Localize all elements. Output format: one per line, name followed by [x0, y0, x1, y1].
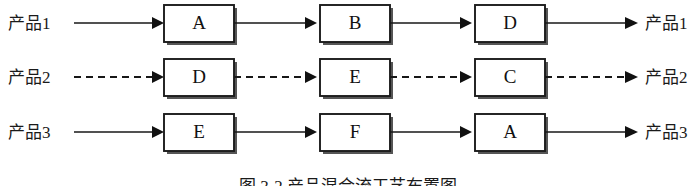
arrow-head-row2-input-icon	[152, 71, 164, 83]
node-label-r1c1: A	[192, 12, 206, 33]
node-label-r2c3: C	[504, 66, 517, 87]
figure-caption: 图 3-2 产品混合流工艺布置图	[0, 172, 696, 186]
arrow-head-row3-output-icon	[625, 126, 638, 138]
node-label-r3c1: E	[193, 121, 205, 142]
node-label-r3c2: F	[350, 121, 361, 142]
node-label-r2c1: D	[192, 66, 206, 87]
arrow-head-row2-output-icon	[625, 71, 638, 83]
figure-container: 产品1 产品2 产品3 产品1 产品2 产品3 A B D D	[0, 0, 696, 186]
arrow-head-row1-input-icon	[152, 17, 164, 29]
arrow-head-row3-c1-c2-icon	[305, 126, 317, 138]
arrow-head-row1-c2-c3-icon	[460, 17, 472, 29]
process-flow-diagram: A B D D E C	[0, 0, 696, 186]
arrow-head-row2-c1-c2-icon	[305, 71, 317, 83]
node-label-r1c3: D	[503, 12, 517, 33]
arrow-head-row1-c1-c2-icon	[305, 17, 317, 29]
arrow-head-row3-c2-c3-icon	[460, 126, 472, 138]
arrow-head-row2-c2-c3-icon	[460, 71, 472, 83]
node-label-r1c2: B	[349, 12, 362, 33]
node-label-r3c3: A	[503, 121, 517, 142]
arrow-head-row3-input-icon	[152, 126, 164, 138]
arrow-head-row1-output-icon	[625, 17, 638, 29]
node-label-r2c2: E	[349, 66, 361, 87]
